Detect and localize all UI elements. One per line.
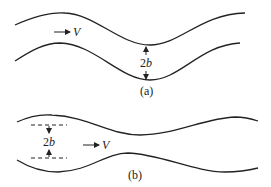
panel-b-velocity-arrow: V: [83, 138, 111, 152]
panel-b-velocity-label: V: [102, 138, 111, 152]
panel-a-lower-wall: [15, 43, 240, 80]
diagram-canvas: V 2b (a) 2b V (b): [0, 0, 271, 187]
panel-a-caption: (a): [140, 84, 153, 98]
panel-b-caption: (b): [128, 168, 142, 182]
panel-b-width-dimension: 2b: [31, 125, 67, 158]
panel-b: 2b V (b): [17, 115, 258, 182]
panel-a-width-label: 2b: [140, 56, 152, 70]
panel-a-velocity-arrow: V: [54, 25, 82, 39]
panel-a: V 2b (a): [15, 13, 245, 98]
panel-a-upper-wall: [15, 13, 245, 45]
panel-a-velocity-label: V: [73, 25, 82, 39]
panel-b-width-label: 2b: [43, 135, 55, 149]
panel-a-width-dimension: 2b: [140, 47, 152, 79]
